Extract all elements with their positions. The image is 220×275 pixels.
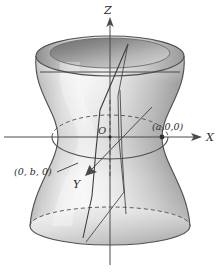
origin-dot [108,135,111,138]
hyperboloid-figure: Z X Y O (a,0,0) (0, b, 0) [0,0,220,275]
x-intercept-dot [160,135,165,140]
x-intercept-label: (a,0,0) [152,121,183,132]
origin-label: O [98,125,106,136]
y-intercept-label: (0, b, 0) [14,166,52,177]
z-axis-label: Z [103,4,112,17]
figure-canvas: Z X Y O (a,0,0) (0, b, 0) [0,0,220,275]
x-axis-label: X [205,131,215,144]
